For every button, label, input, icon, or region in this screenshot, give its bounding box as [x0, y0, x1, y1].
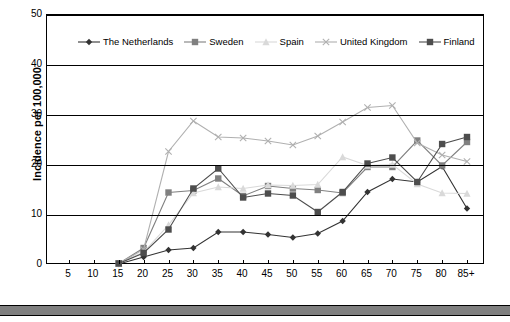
x-tick-mark: [293, 260, 294, 264]
series-layer: [47, 15, 485, 265]
y-tick-label: 0: [12, 258, 42, 269]
x-tick-mark: [69, 260, 70, 264]
triangle-marker-icon: [255, 37, 277, 47]
x-tick-mark: [119, 260, 120, 264]
legend-entry-4: United Kingdom: [315, 36, 408, 47]
y-tick-label: 20: [12, 158, 42, 169]
x-tick-mark: [169, 260, 170, 264]
legend-label: Sweden: [209, 36, 243, 47]
chart-container: Incidence per 100,000 01020304050 510152…: [0, 0, 510, 322]
x-tick-mark: [343, 260, 344, 264]
gridline: [47, 65, 483, 66]
gridline: [47, 115, 483, 116]
square-marker-icon: [184, 37, 206, 47]
legend-label: United Kingdom: [340, 36, 408, 47]
x-tick-mark: [268, 260, 269, 264]
y-tick-label: 40: [12, 58, 42, 69]
x-tick-mark: [243, 260, 244, 264]
legend-label: Finland: [444, 36, 475, 47]
x-tick-label: 85+: [451, 268, 481, 279]
y-tick-label: 10: [12, 208, 42, 219]
legend-label: Spain: [280, 36, 304, 47]
x-tick-mark: [368, 260, 369, 264]
diamond-marker-icon: [78, 37, 100, 47]
x-tick-mark: [218, 260, 219, 264]
square-dark-marker-icon: [419, 37, 441, 47]
gridline: [47, 165, 483, 166]
cross-marker-icon: [315, 37, 337, 47]
plot-area: [46, 14, 484, 264]
chart-legend: The NetherlandsSwedenSpainUnited Kingdom…: [78, 36, 486, 47]
y-tick-label: 30: [12, 108, 42, 119]
legend-entry-5: Finland: [419, 36, 475, 47]
x-tick-mark: [94, 260, 95, 264]
x-tick-mark: [144, 260, 145, 264]
legend-entry-2: Sweden: [184, 36, 243, 47]
y-tick-label: 50: [12, 8, 42, 19]
gridline: [47, 15, 483, 16]
legend-entry-1: The Netherlands: [78, 36, 173, 47]
x-tick-mark: [392, 260, 393, 264]
legend-label: The Netherlands: [103, 36, 173, 47]
x-tick-mark: [442, 260, 443, 264]
gridline: [47, 215, 483, 216]
footer-bar: [0, 305, 510, 316]
x-tick-mark: [467, 260, 468, 264]
legend-entry-3: Spain: [255, 36, 304, 47]
x-tick-mark: [318, 260, 319, 264]
x-tick-mark: [193, 260, 194, 264]
series-5: [116, 134, 471, 267]
x-tick-mark: [417, 260, 418, 264]
